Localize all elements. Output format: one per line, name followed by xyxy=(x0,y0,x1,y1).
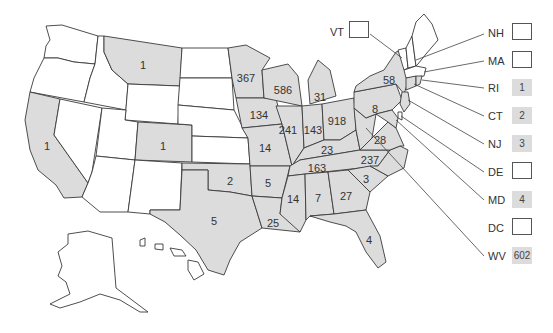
label-va: 28 xyxy=(374,134,386,146)
label-tn: 163 xyxy=(308,162,326,174)
callout-abbr-md: MD xyxy=(488,194,505,206)
state-sd[interactable] xyxy=(178,78,234,110)
label-mo: 14 xyxy=(259,142,271,154)
callout-box-md: 4 xyxy=(512,191,532,208)
callout-abbr-vt: VT xyxy=(330,26,344,38)
state-ks[interactable] xyxy=(192,136,250,164)
label-la: 25 xyxy=(267,217,279,229)
callout-abbr-ct: CT xyxy=(488,110,503,122)
callout-box-nh xyxy=(512,23,532,40)
callout-box-dc xyxy=(512,218,532,235)
state-nd[interactable] xyxy=(180,48,232,78)
label-mi: 31 xyxy=(314,91,326,103)
label-ca: 1 xyxy=(44,140,50,152)
us-map xyxy=(0,0,553,333)
label-tx: 5 xyxy=(211,215,217,227)
label-ok: 2 xyxy=(227,175,233,187)
state-me[interactable] xyxy=(412,14,438,66)
callout-box-wv: 602 xyxy=(512,247,532,264)
label-il: 241 xyxy=(279,124,297,136)
callout-abbr-nh: NH xyxy=(488,27,504,39)
label-pa: 8 xyxy=(372,103,378,115)
callout-abbr-nj: NJ xyxy=(488,138,501,150)
label-nc: 237 xyxy=(361,154,379,166)
label-co: 1 xyxy=(160,140,166,152)
label-ny: 58 xyxy=(383,74,395,86)
callout-abbr-ri: RI xyxy=(488,82,499,94)
label-ar: 5 xyxy=(265,177,271,189)
label-al: 7 xyxy=(315,192,321,204)
callout-box-nj: 3 xyxy=(512,135,532,152)
callout-abbr-de: DE xyxy=(488,166,503,178)
label-in: 143 xyxy=(304,124,322,136)
label-ms: 14 xyxy=(287,193,299,205)
callout-abbr-dc: DC xyxy=(488,222,504,234)
label-fl: 4 xyxy=(366,234,372,246)
label-ia: 134 xyxy=(250,109,268,121)
callout-box-de xyxy=(512,162,532,179)
callout-abbr-ma: MA xyxy=(488,55,505,67)
state-ct[interactable] xyxy=(406,76,416,90)
callout-box-ct: 2 xyxy=(512,107,532,124)
state-wy[interactable] xyxy=(125,84,180,124)
label-sc: 3 xyxy=(363,173,369,185)
state-nj[interactable] xyxy=(400,92,410,112)
label-oh: 918 xyxy=(328,115,346,127)
callout-abbr-wv: WV xyxy=(488,250,506,262)
state-ak[interactable] xyxy=(50,231,148,312)
state-fl[interactable] xyxy=(310,210,386,268)
state-ri[interactable] xyxy=(416,76,422,86)
state-nm[interactable] xyxy=(128,160,182,214)
callout-box-vt xyxy=(349,21,369,38)
callout-box-ma xyxy=(512,51,532,68)
label-ky: 23 xyxy=(321,144,333,156)
label-ga: 27 xyxy=(340,190,352,202)
callout-box-ri: 1 xyxy=(512,79,532,96)
label-mt: 1 xyxy=(140,59,146,71)
label-wi: 586 xyxy=(274,84,292,96)
label-mn: 367 xyxy=(237,72,255,84)
